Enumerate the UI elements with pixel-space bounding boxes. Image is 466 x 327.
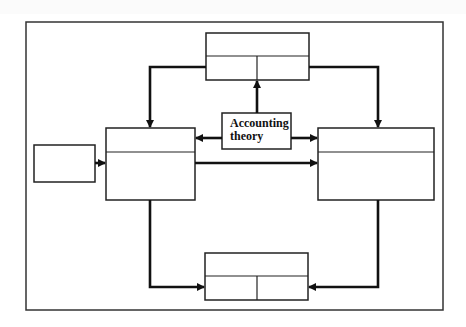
- accounting-theory-label-line2: theory: [230, 130, 289, 143]
- right-box[interactable]: [318, 128, 434, 200]
- input-box[interactable]: [34, 145, 95, 182]
- top-box[interactable]: [206, 33, 309, 80]
- arrow-top-to-right: [309, 67, 378, 127]
- arrow-top-to-left: [150, 67, 206, 127]
- diagram-canvas: [0, 0, 466, 327]
- bottom-box[interactable]: [205, 253, 308, 300]
- left-box[interactable]: [106, 128, 195, 200]
- accounting-theory-label: Accounting theory: [230, 117, 289, 143]
- arrow-right-to-bottom: [309, 200, 378, 287]
- arrow-left-to-bottom: [150, 200, 204, 287]
